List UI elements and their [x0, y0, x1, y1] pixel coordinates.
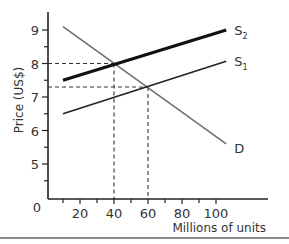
bottom-divider [0, 237, 289, 239]
x-tick-label: 100 [204, 206, 229, 221]
curve-label-s2: S2 [234, 23, 247, 41]
curve-label-s1: S1 [234, 54, 247, 72]
x-tick-label: 80 [174, 206, 191, 221]
curve-s1 [63, 61, 226, 114]
origin-label: 0 [33, 200, 41, 215]
curve-d [63, 27, 226, 144]
axes [42, 12, 268, 204]
supply-demand-chart: 56789204060801000Millions of unitsPrice … [0, 0, 289, 244]
labels: 56789204060801000Millions of unitsPrice … [12, 23, 266, 235]
curve-label-subscript: 1 [242, 63, 247, 72]
curve-label-subscript: 2 [242, 32, 247, 41]
x-tick-label: 40 [106, 206, 123, 221]
curve-label-d: D [234, 141, 244, 156]
y-tick-label: 9 [31, 23, 39, 38]
equilibrium-guides [48, 64, 148, 200]
y-tick-label: 8 [31, 57, 39, 72]
x-tick-label: 60 [140, 206, 157, 221]
x-tick-label: 20 [72, 206, 89, 221]
y-tick-label: 5 [31, 157, 39, 172]
curve-s2 [63, 30, 226, 80]
y-tick-label: 7 [31, 90, 39, 105]
y-axis-title: Price (US$) [12, 67, 26, 134]
y-tick-label: 6 [31, 124, 39, 139]
x-axis-title: Millions of units [172, 221, 266, 235]
curves [63, 27, 226, 144]
